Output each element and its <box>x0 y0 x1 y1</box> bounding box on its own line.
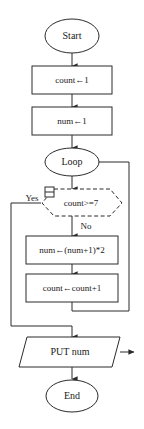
node-update-num: num←(num+1)*2 <box>26 236 118 264</box>
branch-label-yes: Yes <box>25 193 39 203</box>
init-num-label: num←1 <box>57 116 87 126</box>
node-start: Start <box>45 19 99 53</box>
update-num-label: num←(num+1)*2 <box>39 245 105 255</box>
update-count-label: count←count+1 <box>43 283 102 293</box>
branch-label-no: No <box>81 221 92 231</box>
init-count-label: count←1 <box>55 75 89 85</box>
node-end: End <box>46 380 98 412</box>
connector-decision-yes-to-output <box>11 203 72 337</box>
node-loop: Loop <box>45 148 99 176</box>
node-update-count: count←count+1 <box>26 274 118 302</box>
end-label: End <box>64 390 80 401</box>
flowchart-diagram: Start count←1 num←1 Loop count>=7 Yes No <box>0 0 144 429</box>
start-label: Start <box>63 30 82 41</box>
node-init-num: num←1 <box>32 107 112 135</box>
decision-label: count>=7 <box>64 198 99 208</box>
loop-label: Loop <box>61 156 82 167</box>
node-output: PUT num <box>19 337 120 367</box>
node-init-count: count←1 <box>32 66 112 94</box>
output-label: PUT num <box>51 346 90 357</box>
flowchart-canvas: Start count←1 num←1 Loop count>=7 Yes No <box>0 0 144 429</box>
